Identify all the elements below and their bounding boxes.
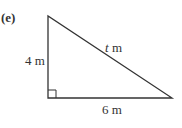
triangle-shape: [48, 16, 172, 98]
hypotenuse-unit: m: [109, 40, 122, 55]
right-triangle-diagram: (e) 4 m t m 6 m: [0, 0, 182, 128]
horizontal-side-label: 6 m: [102, 103, 122, 116]
part-label: (e): [1, 11, 15, 24]
hypotenuse-label: t m: [105, 41, 122, 54]
vertical-side-label: 4 m: [25, 54, 45, 67]
right-angle-marker: [48, 90, 56, 98]
